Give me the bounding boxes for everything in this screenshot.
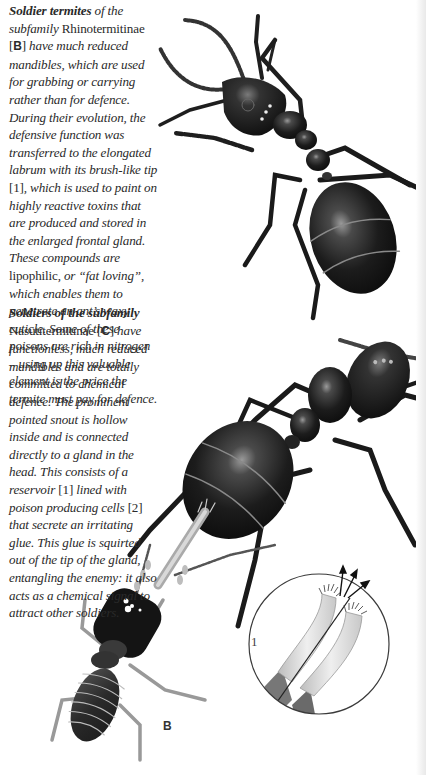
caption-text: have much reduced mandibles, which are u…: [9, 38, 157, 177]
caption-text: , which is used to paint on highly react…: [9, 180, 157, 265]
ref-number: [1]: [58, 482, 73, 497]
caption-paragraph: Soldiers of the subfamilyNasutitermitina…: [9, 304, 159, 622]
term-lipophilic: lipophilic,: [9, 268, 61, 283]
ant-illustration-lower: [130, 331, 426, 626]
caption-text: that secrete an irritating glue. This gl…: [9, 517, 157, 620]
caption-lead: Soldiers of the subfamily: [9, 305, 139, 320]
caption-lead: Soldier termites: [9, 3, 91, 18]
inset-label-1: 1: [251, 634, 258, 650]
book-page: B 1 Soldier termites of thesubfamily Rhi…: [0, 0, 426, 775]
ant-illustration-top: [160, 16, 418, 318]
figure-ref-c: C: [101, 324, 110, 338]
figure-ref-b: B: [13, 39, 22, 53]
page-gutter-shadow: [416, 0, 426, 775]
caption-text: of the: [91, 3, 123, 18]
taxon-name: Nasutitermitinae: [9, 323, 94, 338]
figure-label-b: B: [163, 719, 172, 733]
labrum-inset-magnifier: [249, 566, 389, 730]
ref-number: [1]: [9, 180, 24, 195]
caption-text: have functionless, much reduced mandible…: [9, 323, 148, 497]
caption-text: subfamily: [9, 21, 62, 36]
caption-nasutitermitinae: Soldiers of the subfamilyNasutitermitina…: [9, 304, 159, 622]
ref-number: [2]: [128, 500, 143, 515]
taxon-name: Rhinotermitinae: [62, 21, 145, 36]
